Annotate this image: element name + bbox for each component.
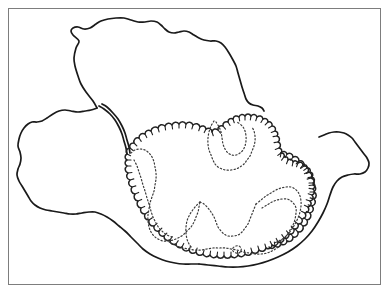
scallop-tick [239, 117, 240, 121]
scallop-tick [292, 162, 293, 166]
scallop-tick [172, 125, 173, 129]
scallop-tick [217, 252, 218, 256]
scallop-tick [309, 188, 313, 189]
scallop-tick [274, 142, 278, 143]
scallop-tick [237, 251, 238, 255]
scallop-tick [165, 126, 166, 130]
scallop-tick [185, 124, 186, 128]
line-art-figure [0, 0, 387, 293]
figure-background [0, 0, 387, 293]
scallop-tick [210, 251, 211, 255]
scallop-tick [128, 172, 132, 173]
scallop-tick [308, 177, 312, 178]
scallop-tick [250, 116, 251, 120]
scallop-tick [309, 185, 313, 186]
figure-container [0, 0, 387, 293]
scallop-tick [273, 136, 277, 137]
scallop-tick [280, 153, 281, 157]
